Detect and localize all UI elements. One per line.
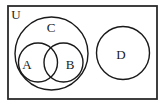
set-label-a: A [22, 57, 32, 72]
venn-diagram-figure: U C A B D [0, 0, 165, 109]
universe-label: U [11, 7, 21, 22]
set-label-d: D [116, 47, 125, 62]
venn-diagram-canvas: U C A B D [0, 0, 165, 109]
set-circle-b [44, 43, 83, 82]
set-label-c: C [47, 20, 56, 35]
universe-rectangle [8, 6, 157, 99]
set-label-b: B [66, 57, 75, 72]
